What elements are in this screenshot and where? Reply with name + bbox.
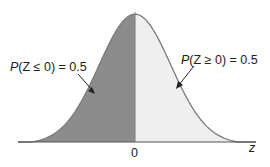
right-region	[135, 14, 256, 142]
z-axis-label: z	[248, 141, 256, 155]
left-region	[18, 14, 135, 142]
chart-svg: P(Z ≤ 0) = 0.5 P(Z ≥ 0) = 0.5 0 z	[0, 0, 270, 167]
left-probability-label: P(Z ≤ 0) = 0.5	[10, 60, 87, 74]
normal-distribution-chart: P(Z ≤ 0) = 0.5 P(Z ≥ 0) = 0.5 0 z	[0, 0, 270, 167]
right-probability-label: P(Z ≥ 0) = 0.5	[181, 53, 258, 67]
zero-tick-label: 0	[131, 146, 138, 160]
